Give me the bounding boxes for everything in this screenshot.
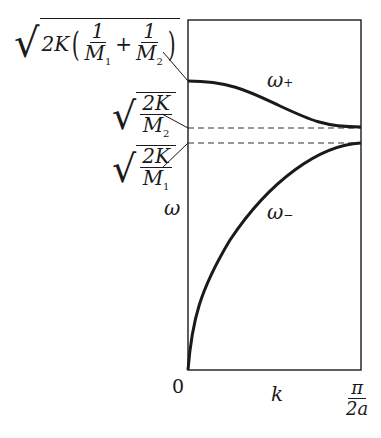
optical-branch-label: ω+ xyxy=(267,68,293,92)
paren-open: ( xyxy=(72,27,80,61)
paren-close: ) xyxy=(168,27,176,61)
fraction-2: 1 M2 xyxy=(136,21,163,68)
label-optical-max: √ 2K ( 1 M1 + 1 M2 ) xyxy=(14,18,180,68)
sqrt-symbol: √ xyxy=(112,150,136,188)
sqrt-symbol: √ xyxy=(14,23,40,63)
acoustic-branch-curve xyxy=(188,143,361,370)
sqrt-symbol: √ xyxy=(112,97,136,135)
x-axis-label: k xyxy=(271,382,283,406)
label-acoustic-max: √ 2K M1 xyxy=(112,145,176,193)
plus-sign: + xyxy=(115,32,132,56)
y-axis-label: ω xyxy=(164,196,180,220)
acoustic-branch-label: ω− xyxy=(267,200,293,224)
coefficient: 2K xyxy=(42,32,70,56)
fraction-1: 1 M1 xyxy=(84,21,111,68)
origin-label: 0 xyxy=(172,375,184,397)
x-max-label: π 2a xyxy=(346,378,368,419)
label-optical-min: √ 2K M2 xyxy=(112,92,176,140)
